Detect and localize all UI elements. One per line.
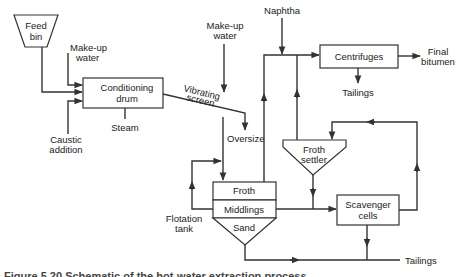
froth-settler-label-2: settler	[301, 154, 327, 165]
flotation-sand-label: Sand	[233, 222, 255, 233]
makeup-water-2-label-2: water	[212, 30, 236, 41]
sand-to-tailings	[245, 245, 400, 260]
process-flow-diagram: Feed bin Make-up water Caustic addition …	[0, 0, 468, 277]
naphtha-label: Naphtha	[264, 5, 301, 16]
makeup-water-1-label-2: water	[75, 52, 99, 63]
final-bitumen-label-2: bitumen	[421, 56, 455, 67]
feed-bin: Feed bin	[14, 15, 58, 47]
conditioning-drum-label-2: drum	[116, 93, 138, 104]
tailings-label: Tailings	[405, 255, 437, 266]
conditioning-drum: Conditioning drum	[83, 78, 163, 108]
flotation-froth-label: Froth	[233, 185, 255, 196]
caustic-stream	[68, 101, 82, 134]
figure-caption: Figure 5.20 Schematic of the hot-water e…	[4, 268, 307, 277]
feed-bin-label-1: Feed	[25, 20, 47, 31]
scavenger-label-1: Scavenger	[345, 199, 390, 210]
oversize-label: Oversize	[227, 133, 264, 144]
steam-label: Steam	[111, 122, 139, 133]
centrifuge-tailings-label: Tailings	[342, 87, 374, 98]
centrifuges-label: Centrifuges	[335, 51, 384, 62]
feed-bin-label-2: bin	[30, 31, 43, 42]
centrifuges: Centrifuges	[320, 45, 398, 68]
flotation-middlings-label: Middlings	[224, 204, 264, 215]
flotation-tank-label-2: tank	[175, 223, 193, 234]
scavenger-cells: Scavenger cells	[337, 195, 399, 225]
flotation-tank: Froth Middlings Sand	[213, 182, 276, 245]
scavenger-label-2: cells	[358, 210, 377, 221]
conditioning-drum-label-1: Conditioning	[101, 82, 154, 93]
froth-settler: Froth settler	[283, 140, 346, 175]
caustic-label-2: addition	[49, 144, 82, 155]
